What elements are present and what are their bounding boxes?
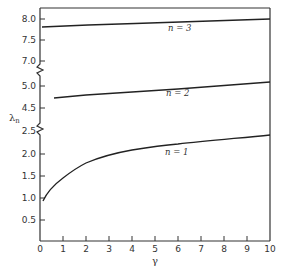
svg-text:1: 1 xyxy=(60,244,66,254)
x-axis-label: γ xyxy=(152,255,158,266)
curve-label-n3: n = 3 xyxy=(168,23,191,33)
svg-text:2: 2 xyxy=(83,244,89,254)
svg-text:5.0: 5.0 xyxy=(22,81,37,91)
svg-text:7: 7 xyxy=(198,244,204,254)
svg-text:5: 5 xyxy=(152,244,158,254)
curves xyxy=(42,19,270,201)
svg-text:2.0: 2.0 xyxy=(22,149,37,159)
svg-text:1.5: 1.5 xyxy=(22,171,36,181)
svg-text:3: 3 xyxy=(106,244,112,254)
svg-text:9: 9 xyxy=(244,244,250,254)
svg-text:2.5: 2.5 xyxy=(22,126,36,136)
x-ticks xyxy=(63,236,247,241)
svg-text:1.0: 1.0 xyxy=(22,193,37,203)
y-ticks xyxy=(40,19,45,220)
curve-n3 xyxy=(42,19,270,27)
svg-text:6: 6 xyxy=(175,244,181,254)
y-axis-label: λn xyxy=(9,112,20,125)
x-tick-labels: 0 1 2 3 4 5 6 7 8 9 10 xyxy=(37,244,276,254)
curve-n1 xyxy=(43,135,270,201)
svg-text:4.5: 4.5 xyxy=(22,103,36,113)
chart-canvas: 8.0 7.5 7.0 5.0 4.5 2.5 2.0 1.5 1.0 0.5 … xyxy=(0,0,281,267)
svg-text:0.5: 0.5 xyxy=(22,215,36,225)
svg-text:7.5: 7.5 xyxy=(22,35,36,45)
svg-text:10: 10 xyxy=(264,244,276,254)
plot-frame xyxy=(37,8,270,241)
svg-text:8: 8 xyxy=(221,244,227,254)
svg-text:8.0: 8.0 xyxy=(22,14,37,24)
svg-text:4: 4 xyxy=(129,244,135,254)
curve-n2 xyxy=(54,82,270,98)
curve-label-n2: n = 2 xyxy=(166,88,189,98)
curve-label-n1: n = 1 xyxy=(165,147,188,157)
y-axis xyxy=(37,8,43,241)
svg-text:0: 0 xyxy=(37,244,43,254)
y-tick-labels: 8.0 7.5 7.0 5.0 4.5 2.5 2.0 1.5 1.0 0.5 xyxy=(22,14,37,225)
svg-text:7.0: 7.0 xyxy=(22,56,37,66)
